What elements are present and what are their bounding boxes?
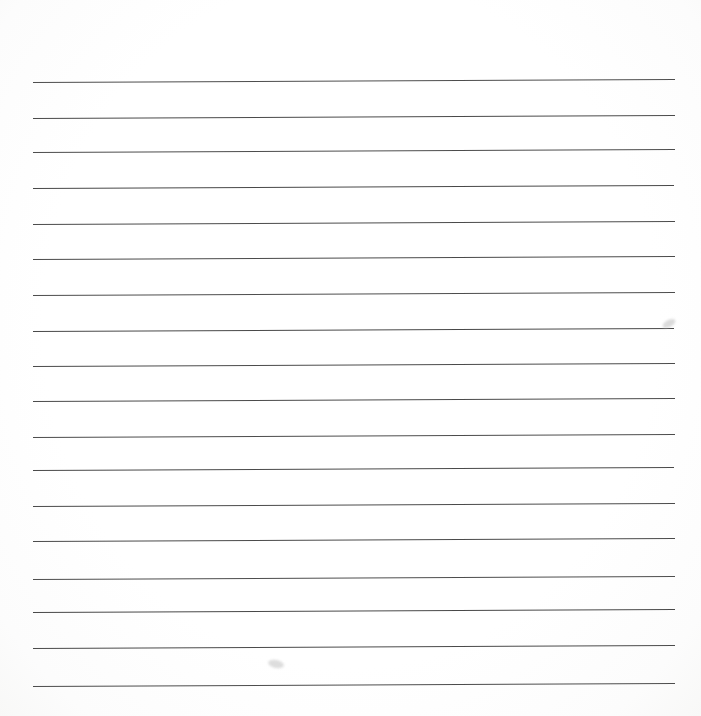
rule-line-18 xyxy=(33,683,675,687)
rule-line-14 xyxy=(33,538,675,542)
rule-line-1 xyxy=(33,79,675,83)
rule-line-6 xyxy=(33,256,675,260)
rule-line-3 xyxy=(33,149,675,153)
rule-line-13 xyxy=(33,502,675,506)
rule-line-12 xyxy=(33,467,674,471)
rule-line-9 xyxy=(33,363,675,367)
ruled-lines-layer xyxy=(0,0,701,716)
rule-line-8 xyxy=(33,327,674,331)
ruled-paper-page: Blank ruled paper xyxy=(0,0,701,716)
rule-line-7 xyxy=(33,292,675,296)
rule-line-5 xyxy=(33,220,675,224)
rule-line-16 xyxy=(33,609,675,613)
rule-line-11 xyxy=(33,433,675,437)
rule-line-17 xyxy=(33,645,675,649)
rule-line-4 xyxy=(33,185,674,189)
rule-line-2 xyxy=(33,114,675,118)
rule-line-15 xyxy=(33,575,675,579)
rule-line-10 xyxy=(33,398,675,402)
